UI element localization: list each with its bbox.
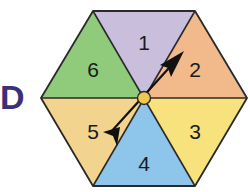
segment-6-number: 6 <box>87 58 99 81</box>
segment-5-number: 5 <box>87 120 99 143</box>
segment-3-number: 3 <box>189 120 201 143</box>
segment-2-number: 2 <box>189 58 201 81</box>
spinner-hub <box>138 92 151 105</box>
hexagon-spinner: 1 2 3 4 5 6 <box>0 0 250 192</box>
segment-1-number: 1 <box>138 31 150 54</box>
segment-4-number: 4 <box>138 152 150 175</box>
